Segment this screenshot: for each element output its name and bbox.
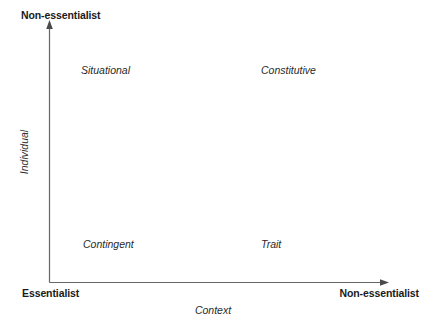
quadrant-diagram: Non-essentialist Essentialist Non-essent…: [0, 0, 427, 326]
y-axis-arrowhead: [46, 20, 53, 29]
x-axis-high-label: Non-essentialist: [339, 288, 419, 299]
x-axis-arrowhead: [380, 279, 389, 286]
x-axis-low-label: Essentialist: [22, 288, 79, 299]
x-axis-title: Context: [195, 305, 231, 316]
quadrant-label-constitutive: Constitutive: [261, 65, 316, 76]
y-axis-title: Individual: [19, 130, 30, 174]
axes-group: [0, 0, 427, 326]
quadrant-label-contingent: Contingent: [83, 239, 134, 250]
y-axis-high-label: Non-essentialist: [21, 10, 101, 21]
quadrant-label-situational: Situational: [81, 65, 130, 76]
quadrant-label-trait: Trait: [261, 239, 281, 250]
